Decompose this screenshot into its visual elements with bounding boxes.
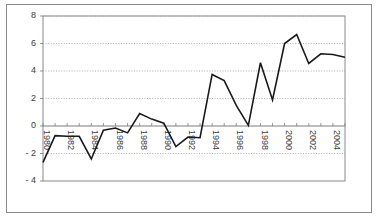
x-tick-label-2000: 2000: [284, 130, 294, 150]
y-tick-label--4: - 4: [25, 175, 36, 185]
x-tick-label-1982: 1982: [66, 130, 76, 150]
x-tick-label-2002: 2002: [308, 130, 318, 150]
x-tick-label-1996: 1996: [235, 130, 245, 150]
y-axis-tick-labels: - 4- 202468: [25, 10, 43, 185]
line-chart: - 4- 202468 1980198219841986198819901992…: [0, 0, 382, 224]
x-tick-label-1992: 1992: [187, 130, 197, 150]
y-tick-label-4: 4: [31, 65, 36, 75]
x-tick-label-2004: 2004: [332, 130, 342, 150]
y-tick-label-0: 0: [31, 120, 36, 130]
x-tick-label-1988: 1988: [139, 130, 149, 150]
y-tick-label--2: - 2: [25, 148, 36, 158]
x-axis-tick-labels: 1980198219841986198819901992199419961998…: [42, 130, 342, 150]
figure-canvas: - 4- 202468 1980198219841986198819901992…: [0, 0, 382, 224]
x-tick-label-1990: 1990: [163, 130, 173, 150]
x-tick-label-1986: 1986: [115, 130, 125, 150]
x-tick-label-1994: 1994: [211, 130, 221, 150]
y-tick-label-8: 8: [31, 10, 36, 20]
x-tick-label-1998: 1998: [260, 130, 270, 150]
y-tick-label-6: 6: [31, 38, 36, 48]
y-tick-label-2: 2: [31, 93, 36, 103]
